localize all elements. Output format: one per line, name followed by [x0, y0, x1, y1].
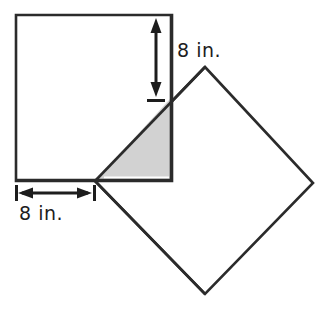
- horizontal-arrowhead-right: [77, 188, 92, 199]
- geometry-figure: 8 in. 8 in.: [0, 0, 326, 311]
- horizontal-dimension-label: 8 in.: [19, 204, 63, 223]
- figure-canvas: [0, 0, 326, 311]
- horizontal-arrowhead-left: [18, 188, 33, 199]
- horizontal-dimension-arrow: [17, 185, 95, 201]
- vertical-dimension-label: 8 in.: [177, 41, 221, 60]
